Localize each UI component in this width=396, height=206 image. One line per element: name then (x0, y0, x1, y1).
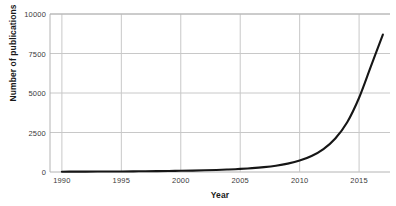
data-series-line (62, 35, 383, 172)
publications-line-chart: 025005000750010000 Number of publication… (0, 0, 396, 206)
x-tick-label-2000: 2000 (161, 176, 201, 185)
x-tick-label-2015: 2015 (339, 176, 379, 185)
x-tick-label-1990: 1990 (42, 176, 82, 185)
x-tick-label-2005: 2005 (220, 176, 260, 185)
x-tick-label-2010: 2010 (280, 176, 320, 185)
x-tick-label-1995: 1995 (101, 176, 141, 185)
horizontal-gridlines (50, 14, 390, 172)
